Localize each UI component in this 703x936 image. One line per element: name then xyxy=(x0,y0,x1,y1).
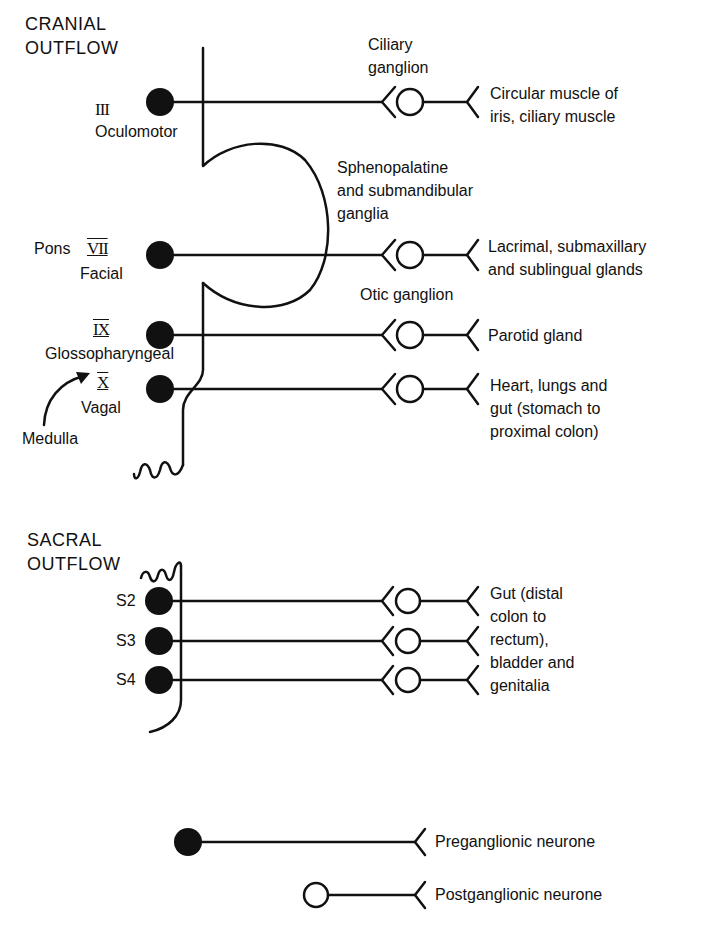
legend-postganglionic-label: Postganglionic neurone xyxy=(435,885,602,905)
legend-open-cell-icon xyxy=(304,883,328,907)
legend-post-terminal-icon xyxy=(415,882,425,908)
cranial-heading-line2: OUTFLOW xyxy=(25,36,119,60)
brainstem-outline-upper xyxy=(203,48,328,307)
target-iris-ciliary-muscle: Circular muscle of iris, ciliary muscle xyxy=(490,82,618,128)
cell-body-VII xyxy=(146,241,174,269)
nerve-name-facial: Facial xyxy=(80,264,123,284)
nerve-numeral-VII: VII xyxy=(87,239,108,259)
synapse-S3 xyxy=(382,627,478,655)
synapse-S4 xyxy=(382,666,478,694)
label-ciliary-ganglion: Ciliary ganglion xyxy=(368,33,429,79)
nerve-name-oculomotor: Oculomotor xyxy=(95,122,178,142)
wavy-cut-sacral xyxy=(141,563,181,582)
sacral-heading-line1: SACRAL xyxy=(27,528,121,552)
cell-body-S3 xyxy=(145,627,173,655)
cell-body-S4 xyxy=(145,666,173,694)
segment-S3: S3 xyxy=(116,631,136,651)
medulla-arrow xyxy=(44,376,84,425)
segment-S4: S4 xyxy=(116,670,136,690)
label-otic-ganglion: Otic ganglion xyxy=(360,285,453,305)
brainstem-outline-lower xyxy=(183,283,203,465)
cranial-heading: CRANIAL OUTFLOW xyxy=(25,12,119,60)
region-pons: Pons xyxy=(34,239,70,259)
synapse-S2 xyxy=(382,587,478,615)
synapse-sphenopalatine xyxy=(382,240,478,270)
cranial-heading-line1: CRANIAL xyxy=(25,12,119,36)
label-sphenopalatine-ganglia: Sphenopalatine and submandibular ganglia xyxy=(337,156,473,225)
cell-body-X xyxy=(146,375,174,403)
segment-S2: S2 xyxy=(116,591,136,611)
wavy-cut-cranial xyxy=(134,462,183,478)
nerve-numeral-III: III xyxy=(95,100,109,120)
nerve-name-vagal: Vagal xyxy=(81,398,121,418)
nerve-numeral-X: X xyxy=(97,373,108,393)
target-distal-gut-bladder-genitalia: Gut (distal colon to rectum), bladder an… xyxy=(490,582,575,697)
nerve-numeral-IX: IX xyxy=(93,320,109,340)
legend-pre-terminal-icon xyxy=(415,829,425,855)
cell-body-S2 xyxy=(145,587,173,615)
nerve-name-glossopharyngeal: Glossopharyngeal xyxy=(45,344,174,364)
region-medulla: Medulla xyxy=(22,429,78,449)
synapse-vagal xyxy=(382,374,478,404)
legend-preganglionic-label: Preganglionic neurone xyxy=(435,832,595,852)
synapse-otic xyxy=(382,320,478,350)
target-salivary-lacrimal-glands: Lacrimal, submaxillary and sublingual gl… xyxy=(488,235,646,281)
target-heart-lungs-gut: Heart, lungs and gut (stomach to proxima… xyxy=(490,374,607,443)
cell-body-III xyxy=(146,88,174,116)
sacral-heading-line2: OUTFLOW xyxy=(27,552,121,576)
target-parotid-gland: Parotid gland xyxy=(488,326,582,346)
sacral-heading: SACRAL OUTFLOW xyxy=(27,528,121,576)
synapse-ciliary xyxy=(382,87,478,117)
